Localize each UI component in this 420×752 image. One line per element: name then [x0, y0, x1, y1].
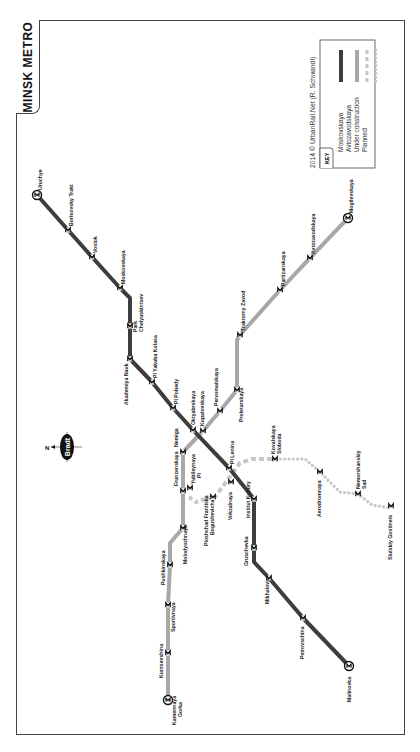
svg-text:Sloboda: Sloboda: [276, 433, 282, 454]
station-aerodromnaya[interactable]: Aerodromnaya: [316, 469, 323, 517]
svg-text:Pl Yakuba Kolasa: Pl Yakuba Kolasa: [152, 335, 158, 378]
station-nemorshanskiy-sad[interactable]: Nemorshanskiy Sad: [355, 450, 367, 496]
svg-text:Aerodromnaya: Aerodromnaya: [316, 480, 322, 517]
svg-text:Vostok: Vostok: [92, 236, 98, 253]
station-bogushevicha[interactable]: Ploshchad Frantiska Bogushevicha: [203, 494, 216, 546]
svg-text:Moskovskaya: Moskovskaya: [337, 112, 345, 152]
station-akademiya-nauk[interactable]: Akademiya Nauk: [123, 356, 133, 405]
svg-text:Bogushevicha: Bogushevicha: [209, 499, 215, 535]
svg-text:Petrovschina: Petrovschina: [299, 626, 305, 659]
svg-text:Akademiya Nauk: Akademiya Nauk: [123, 363, 129, 405]
svg-text:Nemiga: Nemiga: [173, 428, 179, 447]
svg-text:Mogilevskaya: Mogilevskaya: [348, 179, 354, 213]
metro-map: Uruchye Borisovsky Trakt Vostok Moskovsk…: [0, 0, 420, 752]
svg-text:Gorka: Gorka: [177, 702, 183, 717]
svg-text:Kupalovskaya: Kupalovskaya: [199, 391, 205, 426]
svg-text:Partizanskaya: Partizanskaya: [280, 251, 286, 286]
svg-text:Institut Kultury: Institut Kultury: [245, 481, 251, 518]
station-molodyozhnaya[interactable]: Molodyozhnaya: [180, 525, 188, 564]
svg-text:Pl: Pl: [196, 473, 202, 478]
station-proletarskaya[interactable]: Proletarskaya: [234, 387, 244, 422]
svg-text:Pl Pobedy: Pl Pobedy: [173, 379, 179, 404]
svg-text:Pushkinskaya: Pushkinskaya: [160, 550, 166, 585]
station-yubileynaya-pl[interactable]: Yubileynaya Pl: [187, 454, 202, 491]
station-kovalskaya-sloboda[interactable]: Kovalskaya Sloboda: [270, 425, 282, 461]
svg-text:Proletarskaya: Proletarskaya: [238, 388, 244, 422]
svg-text:Uruchye: Uruchye: [37, 169, 43, 190]
svg-text:Molodyozhnaya: Molodyozhnaya: [182, 525, 188, 564]
svg-text:Oktyabrskaya: Oktyabrskaya: [190, 391, 196, 425]
station-malinovka[interactable]: Malinovka: [345, 662, 354, 703]
svg-text:Under construction: Under construction: [353, 97, 360, 152]
station-nemiga[interactable]: Nemiga: [173, 428, 186, 454]
svg-text:Chelyuskintsev: Chelyuskintsev: [138, 294, 144, 332]
svg-text:Avtozavodskaya: Avtozavodskaya: [345, 104, 353, 152]
station-kamennaya-gorka[interactable]: Kamennaya Gorka: [164, 696, 184, 726]
station-uruchye[interactable]: Uruchye: [33, 169, 44, 199]
credit-text: 2014 © UrbanRail.Net (R. Schwandl): [309, 57, 317, 168]
svg-text:Yubileynaya: Yubileynaya: [190, 454, 196, 484]
svg-text:Traktorny Zavod: Traktorny Zavod: [240, 291, 246, 331]
station-mikhalovo[interactable]: Mikhalovo: [264, 575, 272, 604]
station-vostok[interactable]: Vostok: [89, 236, 98, 260]
station-traktorny-zavod[interactable]: Traktorny Zavod: [237, 291, 246, 338]
svg-text:Malinovka: Malinovka: [346, 677, 352, 702]
station-pl-lenina[interactable]: Pl Lenina: [226, 441, 235, 471]
svg-text:Kuntsevshina: Kuntsevshina: [158, 644, 164, 678]
station-vokzalnaya[interactable]: Vokzalnaya: [227, 479, 234, 520]
station-mogilevskaya[interactable]: Mogilevskaya: [344, 179, 355, 222]
station-pl-yakuba-kolasa[interactable]: Pl Yakuba Kolasa: [149, 335, 158, 385]
svg-text:Avtozavodskaya: Avtozavodskaya: [310, 213, 316, 254]
north-label: N: [45, 445, 49, 451]
svg-text:Mikhalovo: Mikhalovo: [264, 579, 270, 604]
svg-text:Slutskiy Gostinets: Slutskiy Gostinets: [387, 515, 393, 560]
compass: N Bradt: [45, 432, 82, 462]
svg-text:Moskovskaya: Moskovskaya: [120, 250, 126, 284]
svg-text:Vokzalnaya: Vokzalnaya: [227, 492, 233, 520]
svg-text:Borisovsky Trakt: Borisovsky Trakt: [68, 184, 74, 226]
svg-text:Pl Lenina: Pl Lenina: [229, 441, 235, 464]
station-borisovsky-trakt[interactable]: Borisovsky Trakt: [65, 184, 74, 233]
svg-text:Frunzenskaya: Frunzenskaya: [173, 451, 179, 486]
station-slutskiy-gostinets[interactable]: Slutskiy Gostinets: [387, 503, 394, 560]
svg-text:Sportivnaya: Sportivnaya: [170, 602, 176, 632]
svg-text:Sad: Sad: [361, 479, 367, 489]
legend: KEY Moskovskaya Avtozavodskaya Under con…: [320, 40, 376, 168]
station-partizanskaya[interactable]: Partizanskaya: [277, 251, 286, 292]
station-avtozavodskaya[interactable]: Avtozavodskaya: [307, 213, 316, 260]
legend-heading: KEY: [324, 152, 330, 164]
svg-text:Pervomaiskaya: Pervomaiskaya: [213, 368, 219, 406]
station-pl-pobedy[interactable]: Pl Pobedy: [170, 379, 179, 411]
north-arrow-icon: [51, 445, 55, 449]
svg-text:Planned: Planned: [361, 128, 368, 152]
bradt-logo-text: Bradt: [64, 437, 71, 456]
svg-text:Gruschevka: Gruschevka: [243, 536, 249, 566]
